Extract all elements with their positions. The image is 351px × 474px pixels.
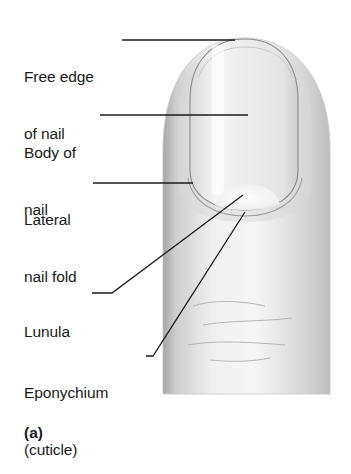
label-body-of-nail-line1: Body of: [24, 143, 76, 162]
label-eponychium-line1: Eponychium: [24, 383, 108, 402]
label-eponychium-line2: (cuticle): [24, 440, 108, 459]
label-eponychium: Eponychium (cuticle): [24, 345, 108, 474]
label-lunula-line1: Lunula: [24, 322, 70, 341]
nail-highlight: [212, 45, 224, 195]
label-free-edge-line1: Free edge: [24, 67, 94, 86]
label-lateral-nail-fold-line1: Lateral: [24, 210, 77, 229]
panel-label: (a): [24, 424, 43, 442]
